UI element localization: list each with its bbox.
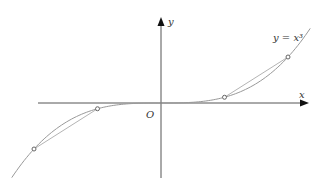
origin-label: O (146, 109, 154, 120)
curve-label: y = x³ (272, 32, 303, 43)
x-axis-arrow-icon (300, 100, 309, 107)
y-axis-arrow-icon (158, 17, 165, 26)
marked-point (223, 95, 227, 99)
cubic-plot: x y O y = x³ (0, 0, 320, 189)
y-axis-label: y (167, 16, 174, 27)
marked-point (32, 147, 36, 151)
marked-point (286, 55, 290, 59)
marked-point (96, 107, 100, 111)
right-chord (225, 57, 289, 97)
x-axis-label: x (299, 89, 305, 100)
left-chord (34, 109, 98, 149)
